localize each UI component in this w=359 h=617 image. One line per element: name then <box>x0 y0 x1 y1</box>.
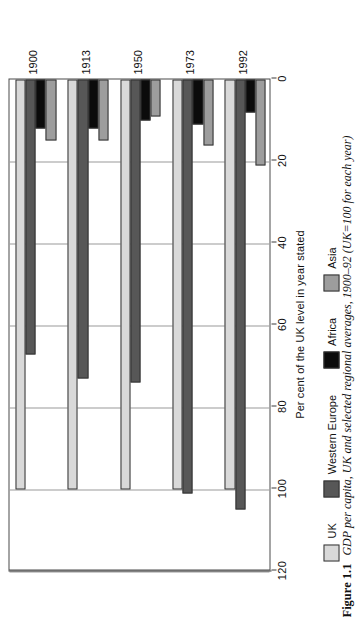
bar-western-europe-1973 <box>182 79 192 493</box>
figure-number: Figure 1.1 <box>340 563 355 617</box>
bar-africa-1913 <box>88 79 98 128</box>
bar-africa-1973 <box>192 79 202 124</box>
bar-africa-1900 <box>35 79 45 128</box>
bars-layer <box>9 79 269 569</box>
bar-western-europe-1950 <box>130 79 140 382</box>
bar-group <box>114 79 166 569</box>
category-label-1992: 1992 <box>236 28 248 74</box>
bar-asia-1900 <box>45 79 55 141</box>
bar-group <box>61 79 113 569</box>
axis-tick-label: 60 <box>275 304 287 344</box>
category-label-1973: 1973 <box>183 28 195 74</box>
value-axis-line <box>8 570 271 571</box>
bar-uk-1950 <box>120 79 130 489</box>
bar-group <box>166 79 218 569</box>
bar-western-europe-1913 <box>77 79 87 378</box>
bar-uk-1973 <box>172 79 182 489</box>
bar-western-europe-1900 <box>25 79 35 354</box>
bar-group <box>9 79 61 569</box>
figure-caption-text: GDP per capita, UK and selected regional… <box>340 135 355 555</box>
axis-tick-label: 120 <box>275 550 287 590</box>
value-axis-title: Per cent of the UK level in year stated <box>293 78 305 570</box>
bar-group <box>219 79 271 569</box>
category-label-1950: 1950 <box>131 28 143 74</box>
figure-caption: Figure 1.1 GDP per capita, UK and select… <box>333 0 355 617</box>
bar-western-europe-1992 <box>235 79 245 510</box>
axis-tick-label: 20 <box>275 140 287 180</box>
category-label-1900: 1900 <box>26 28 38 74</box>
bar-uk-1900 <box>15 79 25 489</box>
category-label-1913: 1913 <box>79 28 91 74</box>
bar-uk-1992 <box>224 79 234 489</box>
rotated-figure-wrapper: 020406080100120 Per cent of the UK level… <box>0 0 359 617</box>
axis-tick-label: 0 <box>275 58 287 98</box>
axis-tick-label: 80 <box>275 386 287 426</box>
bar-africa-1950 <box>140 79 150 120</box>
bar-asia-1950 <box>150 79 160 116</box>
bar-asia-1973 <box>203 79 213 145</box>
chart-figure: 020406080100120 Per cent of the UK level… <box>0 0 359 617</box>
axis-tick-label: 40 <box>275 222 287 262</box>
bar-uk-1913 <box>67 79 77 489</box>
bar-asia-1913 <box>98 79 108 141</box>
bar-africa-1992 <box>245 79 255 112</box>
bar-asia-1992 <box>255 79 265 165</box>
plot-area <box>8 78 270 570</box>
axis-tick-label: 100 <box>275 468 287 508</box>
